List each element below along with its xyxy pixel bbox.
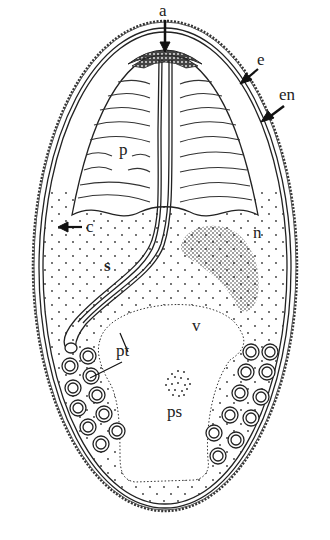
label-c: c xyxy=(86,217,94,236)
spore-diagram: a e en p c n s v pt ps xyxy=(0,0,330,540)
label-ps: ps xyxy=(167,402,182,421)
label-pt: pt xyxy=(116,341,130,360)
label-s: s xyxy=(104,256,111,275)
label-p: p xyxy=(119,140,128,159)
label-v: v xyxy=(192,316,201,335)
label-n: n xyxy=(253,223,262,242)
label-en: en xyxy=(279,85,296,104)
label-e: e xyxy=(257,50,265,69)
label-a: a xyxy=(159,1,167,20)
